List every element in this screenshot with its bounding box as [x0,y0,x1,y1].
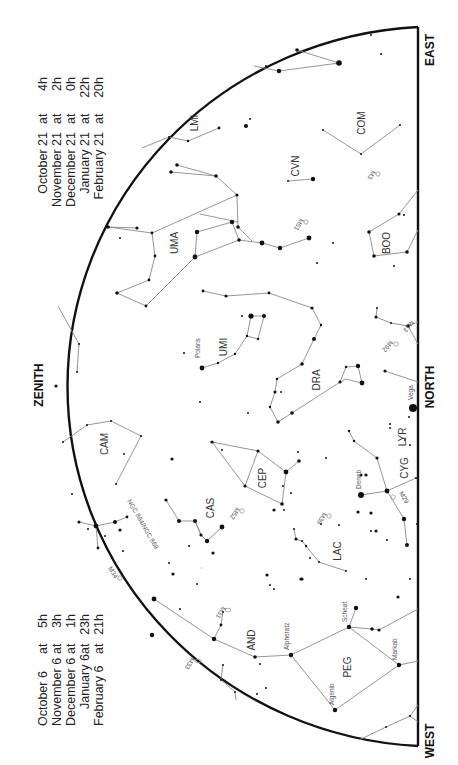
label-scheat: Scheat [341,602,348,622]
svg-text:21h: 21h [92,614,106,635]
label-m29: M29 [398,490,411,505]
label-com: COM [356,111,367,134]
label-uma: UMA [169,232,180,255]
svg-text:3h: 3h [50,614,64,628]
time-table-east: October 21 at 4h November 21 at 2h Decem… [36,77,106,207]
star-labels: Polaris Vega Deneb Alpheratz Scheat Mark… [194,337,415,705]
label-algenib: Algenib [328,683,336,705]
label-vega: Vega [407,385,415,400]
svg-text:January 21: January 21 [78,132,92,194]
label-markab: Markab [391,638,398,660]
label-peg: PEG [342,656,353,677]
label-dra: DRA [311,369,322,390]
label-deneb: Deneb [355,469,362,489]
label-m39: M39 [316,512,329,527]
label-cvn: CVN [290,155,301,176]
svg-text:at: at [50,643,64,654]
label-boo: BOO [381,232,392,254]
svg-text:at: at [36,643,50,654]
svg-text:November 21: November 21 [50,132,64,207]
svg-text:at: at [64,643,78,654]
label-lyr: LYR [397,428,408,447]
svg-text:4h: 4h [36,77,50,91]
label-lmi: LMI [189,115,200,132]
svg-text:at: at [78,113,92,124]
svg-text:at: at [92,113,106,124]
label-umi: UMI [218,338,229,356]
svg-text:at: at [78,643,92,654]
label-cep: CEP [257,467,268,488]
west-label: WEST [423,723,437,758]
svg-text:February 6: February 6 [92,666,106,726]
label-cyg: CYG [399,457,410,479]
svg-text:October 21: October 21 [36,132,50,194]
label-m3: M3 [366,170,377,182]
svg-text:January 6: January 6 [78,654,92,709]
label-cam: CAM [99,433,110,455]
constellation-labels: LMI COM CVN UMA BOO UMI DRA CAM CEP CAS … [99,111,410,677]
svg-text:1h: 1h [64,614,78,628]
zenith-label: ZENITH [32,363,46,406]
label-m52: M52 [229,507,242,522]
svg-text:2h: 2h [50,77,64,91]
label-cas: CAS [205,497,216,518]
svg-text:at: at [92,643,106,654]
east-label: EAST [423,33,437,66]
stars [54,34,418,728]
svg-text:December 6: December 6 [64,658,78,726]
svg-text:0h: 0h [64,77,78,91]
star-chart: EAST WEST NORTH ZENITH October 21 at 4h … [0,0,458,765]
label-m51: M51 [293,218,306,233]
deep-sky-symbols [118,172,398,663]
svg-text:23h: 23h [78,614,92,635]
label-m33: M33 [184,657,197,672]
label-polaris: Polaris [194,337,201,358]
svg-text:at: at [50,113,64,124]
north-label: NORTH [423,366,437,409]
svg-text:November 6: November 6 [50,658,64,726]
svg-text:February 21: February 21 [92,132,106,199]
svg-text:December 21: December 21 [64,132,78,207]
label-alpheratz: Alpheratz [283,623,291,650]
svg-text:20h: 20h [92,77,106,98]
svg-text:at: at [36,113,50,124]
svg-text:22h: 22h [78,77,92,98]
svg-text:October 6: October 6 [36,671,50,726]
constellation-lines [58,50,418,740]
label-ngc884-869: NGC 884/NGC 869 [126,498,160,550]
svg-text:at: at [64,113,78,124]
label-and: AND [246,629,257,650]
label-m31: M31 [215,606,228,621]
svg-text:5h: 5h [36,614,50,628]
label-m13: M13 [402,319,416,333]
label-m92: M92 [381,339,395,353]
time-table-west: October 6 at 5h November 6 at 3h Decembe… [36,614,106,726]
label-lac: LAC [332,541,343,560]
